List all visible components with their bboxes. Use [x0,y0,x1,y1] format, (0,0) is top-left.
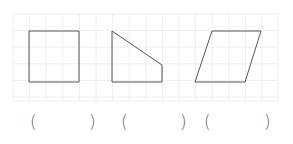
answer-3-close-paren: ) [264,112,271,132]
square-shape [29,31,79,82]
answer-2-close-paren: ) [180,112,187,132]
answer-1-open-paren: ( [30,112,37,132]
parallelogram-shape [195,31,261,82]
answer-3-open-paren: ( [204,112,211,132]
shape-figure [0,0,293,110]
trapezoid-shape [112,31,162,82]
grid-background [13,14,278,101]
answer-1-close-paren: ) [89,112,96,132]
answer-2-open-paren: ( [121,112,128,132]
